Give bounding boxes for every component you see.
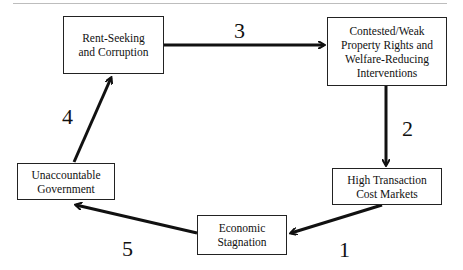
node-label: Unaccountable Government bbox=[32, 168, 101, 196]
edge-label-5: 5 bbox=[122, 238, 133, 260]
node-label: High Transaction Cost Markets bbox=[347, 173, 427, 201]
arrow-4 bbox=[74, 78, 111, 162]
node-label: Economic Stagnation bbox=[217, 221, 266, 249]
node-economic-stagnation: Economic Stagnation bbox=[197, 215, 287, 255]
edge-label-2: 2 bbox=[402, 118, 413, 140]
node-label: Rent-Seeking and Corruption bbox=[79, 31, 149, 59]
edge-label-1: 1 bbox=[339, 239, 350, 261]
edge-label-4: 4 bbox=[62, 106, 73, 128]
node-rent-seeking: Rent-Seeking and Corruption bbox=[63, 16, 164, 74]
node-high-transaction-cost: High Transaction Cost Markets bbox=[332, 168, 442, 205]
arrow-5 bbox=[76, 205, 197, 233]
arrow-1 bbox=[291, 205, 382, 233]
node-label: Contested/Weak Property Rights and Welfa… bbox=[341, 24, 433, 80]
node-contested-property-rights: Contested/Weak Property Rights and Welfa… bbox=[327, 17, 447, 86]
edge-label-3: 3 bbox=[234, 20, 245, 42]
node-unaccountable-government: Unaccountable Government bbox=[17, 163, 115, 200]
